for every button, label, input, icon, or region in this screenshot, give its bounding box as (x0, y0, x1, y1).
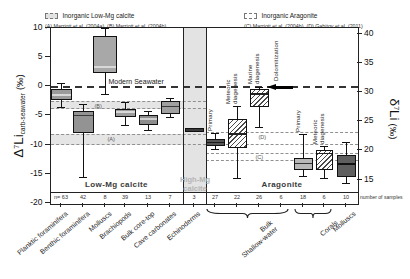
column-sublabel-text: Primary (207, 109, 214, 131)
section-label-aragonite: Aragonite (206, 180, 358, 189)
low-mg-band-swatch-icon (45, 13, 58, 19)
box-corals-primary (294, 158, 313, 170)
sample-count: 10 (333, 194, 359, 200)
legend-aragonite-title: Inorganic Aragonite (261, 12, 317, 19)
bottom-axis-tick-mark (82, 203, 83, 207)
whisker-cap (255, 127, 263, 128)
bottom-axis-tick-mark (323, 203, 324, 207)
column-sublabel-text: Dolomitization (273, 41, 280, 81)
left-axis-tick-mark (45, 85, 50, 86)
left-axis-tick-label: -15 (22, 168, 43, 178)
column-sublabel: Dolomitization (273, 41, 280, 81)
right-axis-tick-mark (357, 62, 362, 63)
modern-seawater-label: Modern Seawater (107, 78, 166, 85)
right-axis-tick-label: 35 (364, 57, 384, 67)
dolomitization-arrow-shaft (275, 86, 293, 88)
sample-count: 7 (157, 194, 183, 200)
number-of-samples-label: number of samples (360, 194, 403, 200)
whisker-cap (79, 104, 87, 105)
bottom-axis-tick-mark (280, 203, 281, 207)
column-sublabel: Meteoric diagenesis (312, 113, 326, 144)
right-axis-tick-mark (357, 91, 362, 92)
right-axis-tick-mark (357, 179, 362, 180)
median-line (229, 133, 246, 135)
bottom-axis-tick-mark (60, 203, 61, 207)
bottom-axis-tick-mark (236, 203, 237, 207)
whisker-cap (211, 133, 219, 134)
median-line (52, 94, 71, 96)
modern-seawater-line (51, 86, 359, 87)
column-sublabel: Marine diagenesis (247, 54, 261, 85)
whisker-cap (342, 183, 350, 184)
section-label-low-mg: Low-Mg calcite (51, 180, 183, 189)
median-line (116, 111, 135, 113)
left-axis-tick-label: -10 (22, 139, 43, 149)
right-axis-tick-mark (357, 120, 362, 121)
left-axis-tick-mark (45, 144, 50, 145)
median-line (207, 142, 224, 144)
right-axis-tick-label: 40 (364, 28, 384, 38)
whisker-cap (79, 177, 87, 178)
lithium-isotope-boxplot-figure: Inorganic Low-Mg calcite (A) Marriott et… (0, 0, 410, 279)
column-sublabel-text: Meteoric diagenesis (312, 113, 326, 144)
right-axis-tick-label: 20 (364, 144, 384, 154)
group-brace-icon (206, 208, 289, 220)
left-axis-isotope: 7 (13, 145, 20, 149)
right-axis-element: Li (387, 110, 402, 121)
median-line (317, 153, 332, 155)
reference-band-C (206, 153, 358, 161)
whisker-cap (255, 87, 263, 88)
bottom-axis-tick-mark (302, 203, 303, 207)
column-sublabel-text: Meteoric diagenesis (225, 73, 239, 104)
bottom-axis-tick-mark (104, 203, 105, 207)
right-axis-units: (‰) (388, 124, 399, 140)
whisker-cap (299, 134, 307, 135)
whisker-cap (144, 130, 152, 131)
left-axis-tick-label: 0 (22, 80, 43, 90)
left-axis-tick-label: 10 (22, 22, 43, 32)
box-marine-diagenesis (250, 89, 269, 106)
median-line (186, 129, 203, 131)
median-line (162, 106, 179, 108)
column-sublabel: Primary (207, 109, 214, 131)
whisker-cap (233, 106, 241, 107)
whisker-cap (166, 98, 174, 99)
median-line (338, 163, 355, 165)
group-label-bulk-shallow-water: Bulk Shallow-water (235, 219, 278, 259)
section-label-high-mg: High-Mg calcite (167, 176, 224, 193)
median-line (94, 66, 116, 68)
box-molluscs (337, 155, 356, 177)
whisker-cap (121, 125, 129, 126)
column-sublabel-text: Marine diagenesis (247, 54, 261, 85)
whisker-cap (342, 142, 350, 143)
whisker-cap (57, 83, 65, 84)
column-sublabel-text: Primary (295, 110, 302, 132)
left-axis-tick-label: -20 (22, 197, 43, 207)
median-line (74, 115, 93, 117)
whisker-cap (101, 28, 109, 29)
left-axis-tick-mark (45, 173, 50, 174)
box-bulk-core-top (139, 115, 158, 125)
left-axis-tick-mark (45, 56, 50, 57)
left-axis-tick-mark (45, 114, 50, 115)
right-axis-delta: δ (387, 99, 402, 107)
whisker-cap (101, 94, 109, 95)
bottom-axis-tick-mark (193, 203, 194, 207)
aragonite-band-swatch-icon (244, 13, 257, 19)
left-axis-tick-label: 5 (22, 51, 43, 61)
column-sublabel: Meteoric diagenesis (225, 73, 239, 104)
legend-low-mg-calcite: Inorganic Low-Mg calcite (A) Marriott et… (45, 4, 166, 29)
legend-low-mg-title: Inorganic Low-Mg calcite (62, 12, 134, 19)
reference-band-label-B: (B) (95, 103, 102, 109)
reference-band-label-C: (C) (256, 154, 264, 160)
left-axis-tick-mark (45, 202, 50, 203)
median-line (140, 118, 157, 120)
dolomitization-arrow-head-icon (267, 84, 276, 90)
high-mg-column-background (183, 28, 206, 192)
group-brace-icon (294, 208, 332, 220)
box-cave-carbonates (161, 101, 180, 113)
right-axis-tick-label: 30 (364, 86, 384, 96)
bottom-axis-tick-mark (345, 203, 346, 207)
right-axis-title: δ7Li(‰) (386, 59, 404, 179)
whisker-cap (233, 178, 241, 179)
